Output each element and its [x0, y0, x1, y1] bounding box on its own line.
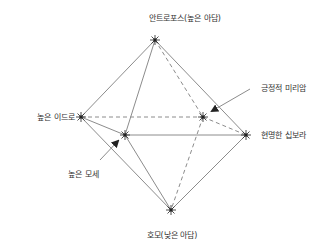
vertex-star-icon-right [241, 130, 251, 140]
vertex-star-icon-top [150, 35, 160, 45]
edge-top-back [155, 40, 203, 117]
vertex-star-icon-bottom [166, 205, 176, 215]
edge-front-bottom [125, 135, 171, 210]
vertex-star-icon-back [198, 112, 208, 122]
vertex-star-icon-front [120, 130, 130, 140]
label-top: 안트로포스(높은 아담) [149, 13, 221, 23]
edge-back-bottom [171, 117, 203, 210]
edge-top-left [81, 40, 155, 117]
vertex-star-icon-left [76, 112, 86, 122]
label-back-callout: 긍정적 미리암 [261, 83, 307, 93]
arrow-icon-back-callout [212, 89, 250, 111]
edge-back-right [203, 117, 246, 135]
edge-left-front [81, 117, 125, 135]
label-right: 현명한 십보라 [261, 130, 307, 140]
label-left: 높은 이드로 [37, 112, 75, 122]
arrow-icon-front-callout [100, 141, 118, 160]
label-front-callout: 높은 모세 [68, 170, 99, 179]
solid-edges [81, 40, 246, 210]
vertex-markers [76, 35, 251, 215]
octahedron-diagram: 안트로포스(높은 아담) 높은 이드로 현명한 십보라 긍정적 미리암 높은 모… [0, 0, 331, 251]
edge-right-bottom [171, 135, 246, 210]
label-bottom: 호모(낮은 아담) [147, 230, 198, 240]
dashed-edges [81, 40, 246, 210]
edge-top-right [155, 40, 246, 135]
edge-top-front [125, 40, 155, 135]
